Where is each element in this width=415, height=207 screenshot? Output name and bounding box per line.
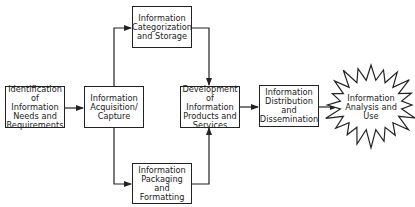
node-development-label: Developmentof InformationProducts andSer… <box>182 85 238 130</box>
node-acquisition-label: InformationAcquisition/Capture <box>90 94 138 121</box>
edge-acquisition-packaging <box>114 127 131 184</box>
node-identification: Identificationof InformationNeeds andReq… <box>5 86 65 128</box>
node-categorization-label: InformationCategorizationand Storage <box>132 14 192 41</box>
node-acquisition: InformationAcquisition/Capture <box>84 86 144 128</box>
node-identification-label: Identificationof InformationNeeds andReq… <box>7 85 64 130</box>
edge-categorization-development <box>191 28 209 85</box>
edge-packaging-development <box>191 128 209 184</box>
node-packaging-label: InformationPackaging andFormatting <box>134 166 190 202</box>
node-distribution: InformationDistributionandDissemination <box>259 85 319 127</box>
node-development: Developmentof InformationProducts andSer… <box>180 86 240 128</box>
node-analysis: InformationAnalysis andUse <box>340 90 402 124</box>
node-packaging: InformationPackaging andFormatting <box>132 163 192 204</box>
node-categorization: InformationCategorizationand Storage <box>132 6 192 48</box>
node-distribution-label: InformationDistributionandDissemination <box>260 88 318 124</box>
node-analysis-label: InformationAnalysis andUse <box>345 94 397 121</box>
edge-acquisition-categorization <box>114 28 131 86</box>
